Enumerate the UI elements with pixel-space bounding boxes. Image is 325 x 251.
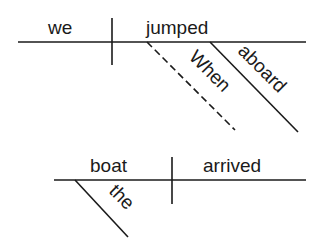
main-clause: we jumped When aboard <box>18 17 306 132</box>
connector-word: When <box>185 46 235 96</box>
adverb-word: aboard <box>234 40 291 97</box>
sub-subject-word: boat <box>90 155 128 176</box>
subordinate-clause: boat arrived the <box>54 155 306 237</box>
article-word: the <box>105 180 139 214</box>
sub-verb-word: arrived <box>203 155 261 176</box>
subject-word: we <box>47 17 72 38</box>
verb-word: jumped <box>145 17 208 38</box>
sentence-diagram: we jumped When aboard boat arrived the <box>0 0 325 251</box>
